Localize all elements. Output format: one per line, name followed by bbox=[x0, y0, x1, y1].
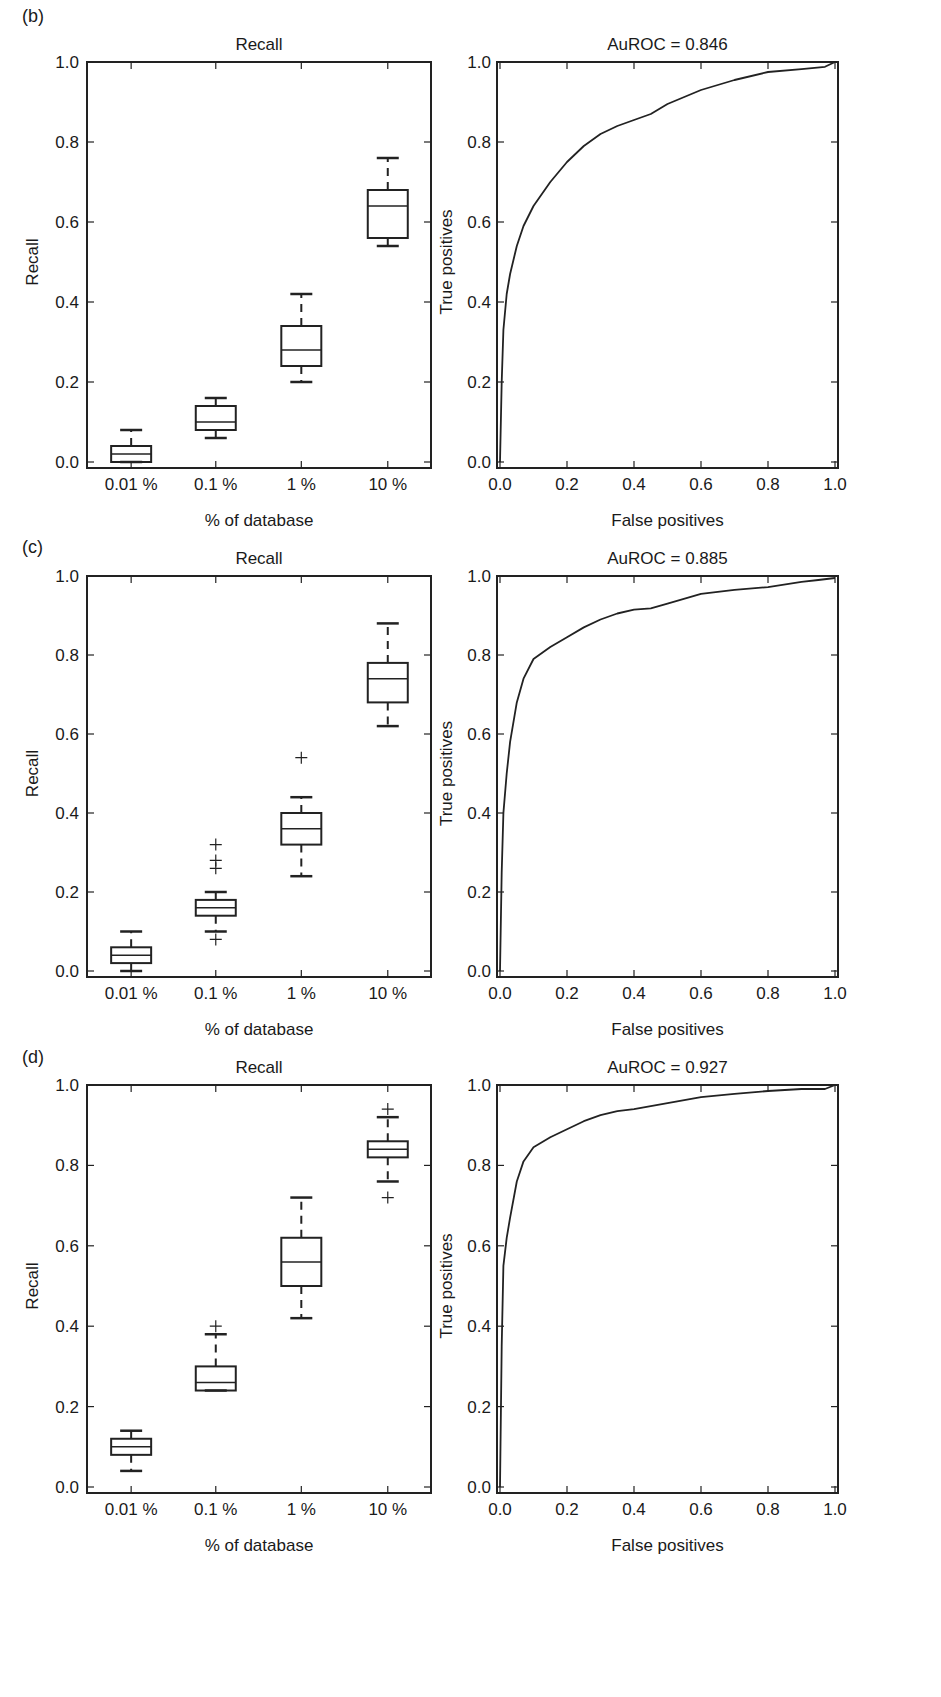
box-3 bbox=[368, 1103, 408, 1203]
y-tick-label: 0.8 bbox=[55, 1156, 79, 1175]
box-iqr bbox=[368, 663, 408, 703]
x-tick-label: 0.01 % bbox=[105, 1500, 158, 1519]
x-tick-label: 0.0 bbox=[488, 475, 512, 494]
plot-frame bbox=[87, 576, 431, 977]
box-0 bbox=[111, 430, 151, 462]
box-3 bbox=[368, 158, 408, 246]
y-tick-label: 0.4 bbox=[55, 804, 79, 823]
y-tick-label: 0.4 bbox=[55, 293, 79, 312]
x-tick-label: 0.01 % bbox=[105, 984, 158, 1003]
x-tick-label: 0.4 bbox=[622, 984, 646, 1003]
y-tick-label: 1.0 bbox=[55, 567, 79, 586]
y-tick-label: 0.2 bbox=[55, 1398, 79, 1417]
y-axis-label: True positives bbox=[437, 721, 456, 826]
plot-frame bbox=[497, 576, 838, 977]
x-axis-label: % of database bbox=[205, 1536, 314, 1555]
x-tick-label: 0.0 bbox=[488, 984, 512, 1003]
box-2 bbox=[281, 1198, 321, 1319]
box-0 bbox=[111, 932, 151, 972]
y-tick-label: 0.2 bbox=[467, 883, 491, 902]
x-tick-label: 0.8 bbox=[756, 984, 780, 1003]
x-axis-label: False positives bbox=[611, 1020, 723, 1039]
flier-marker bbox=[382, 1192, 394, 1204]
chart-title: AuROC = 0.927 bbox=[607, 1058, 728, 1077]
roc-curve-chart: AuROC = 0.9270.00.20.40.60.81.00.00.20.4… bbox=[437, 1058, 847, 1555]
chart-title: AuROC = 0.846 bbox=[607, 35, 728, 54]
x-tick-label: 1 % bbox=[287, 1500, 316, 1519]
x-tick-label: 0.4 bbox=[622, 475, 646, 494]
y-tick-label: 0.2 bbox=[55, 373, 79, 392]
flier-marker bbox=[210, 839, 222, 851]
x-tick-label: 0.6 bbox=[689, 1500, 713, 1519]
y-axis-label: Recall bbox=[23, 750, 42, 797]
y-tick-label: 1.0 bbox=[55, 1076, 79, 1095]
x-tick-label: 0.8 bbox=[756, 1500, 780, 1519]
y-tick-label: 0.6 bbox=[55, 213, 79, 232]
roc-curve-chart: AuROC = 0.8460.00.20.40.60.81.00.00.20.4… bbox=[437, 35, 847, 530]
flier-marker bbox=[210, 1320, 222, 1332]
y-tick-label: 0.8 bbox=[55, 133, 79, 152]
chart-title: AuROC = 0.885 bbox=[607, 549, 728, 568]
x-tick-label: 0.1 % bbox=[194, 1500, 237, 1519]
y-axis-label: Recall bbox=[23, 238, 42, 285]
x-axis-label: False positives bbox=[611, 1536, 723, 1555]
flier-marker bbox=[382, 1103, 394, 1115]
panel-b: (b)Recall0.00.20.40.60.81.0Recall0.01 %0… bbox=[22, 6, 847, 530]
y-axis-label: True positives bbox=[437, 209, 456, 314]
x-tick-label: 10 % bbox=[368, 984, 407, 1003]
panel-letter: (c) bbox=[22, 537, 43, 557]
x-tick-label: 10 % bbox=[368, 475, 407, 494]
y-tick-label: 0.0 bbox=[467, 453, 491, 472]
y-tick-label: 0.2 bbox=[55, 883, 79, 902]
y-tick-label: 0.4 bbox=[55, 1317, 79, 1336]
y-tick-label: 0.6 bbox=[467, 1237, 491, 1256]
y-tick-label: 0.8 bbox=[467, 133, 491, 152]
flier-marker bbox=[210, 854, 222, 866]
roc-curve-chart: AuROC = 0.8850.00.20.40.60.81.00.00.20.4… bbox=[437, 549, 847, 1039]
panel-letter: (d) bbox=[22, 1047, 44, 1067]
x-tick-label: 0.2 bbox=[555, 1500, 579, 1519]
y-tick-label: 0.6 bbox=[467, 213, 491, 232]
y-tick-label: 0.4 bbox=[467, 1317, 491, 1336]
x-tick-label: 1 % bbox=[287, 984, 316, 1003]
box-1 bbox=[196, 398, 236, 438]
x-tick-label: 1.0 bbox=[823, 1500, 847, 1519]
chart-title: Recall bbox=[235, 35, 282, 54]
y-tick-label: 0.0 bbox=[467, 1478, 491, 1497]
chart-title: Recall bbox=[235, 1058, 282, 1077]
x-tick-label: 10 % bbox=[368, 1500, 407, 1519]
recall-boxplot: Recall0.00.20.40.60.81.0Recall0.01 %0.1 … bbox=[23, 549, 431, 1039]
x-axis-label: % of database bbox=[205, 511, 314, 530]
x-tick-label: 0.2 bbox=[555, 984, 579, 1003]
y-tick-label: 0.0 bbox=[55, 453, 79, 472]
box-iqr bbox=[196, 406, 236, 430]
roc-line bbox=[500, 62, 835, 462]
panel-c: (c)Recall0.00.20.40.60.81.0Recall0.01 %0… bbox=[22, 537, 847, 1039]
x-tick-label: 0.0 bbox=[488, 1500, 512, 1519]
x-axis-label: % of database bbox=[205, 1020, 314, 1039]
y-tick-label: 0.8 bbox=[467, 646, 491, 665]
x-tick-label: 0.2 bbox=[555, 475, 579, 494]
box-2 bbox=[281, 752, 321, 877]
y-tick-label: 0.6 bbox=[55, 1237, 79, 1256]
flier-marker bbox=[295, 752, 307, 764]
y-tick-label: 0.8 bbox=[55, 646, 79, 665]
flier-marker bbox=[210, 933, 222, 945]
y-tick-label: 0.0 bbox=[55, 1478, 79, 1497]
y-tick-label: 0.2 bbox=[467, 1398, 491, 1417]
y-tick-label: 1.0 bbox=[467, 567, 491, 586]
roc-line bbox=[500, 578, 835, 971]
y-tick-label: 0.6 bbox=[467, 725, 491, 744]
recall-boxplot: Recall0.00.20.40.60.81.0Recall0.01 %0.1 … bbox=[23, 1058, 431, 1555]
box-iqr bbox=[281, 326, 321, 366]
panel-d: (d)Recall0.00.20.40.60.81.0Recall0.01 %0… bbox=[22, 1047, 847, 1555]
box-iqr bbox=[196, 1366, 236, 1390]
y-tick-label: 1.0 bbox=[467, 53, 491, 72]
y-tick-label: 1.0 bbox=[467, 1076, 491, 1095]
x-tick-label: 1 % bbox=[287, 475, 316, 494]
chart-title: Recall bbox=[235, 549, 282, 568]
x-tick-label: 0.4 bbox=[622, 1500, 646, 1519]
figure-canvas: (b)Recall0.00.20.40.60.81.0Recall0.01 %0… bbox=[0, 0, 941, 1697]
y-tick-label: 0.4 bbox=[467, 804, 491, 823]
y-tick-label: 0.0 bbox=[55, 962, 79, 981]
